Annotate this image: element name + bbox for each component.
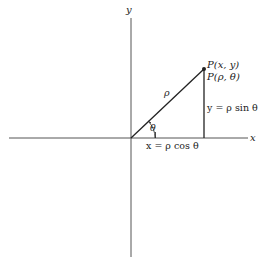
vertical-equation: y = ρ sin θ [206,102,258,113]
horizontal-equation: x = ρ cos θ [146,140,199,151]
point-label-cartesian: P(x, y) [206,59,239,70]
point-p [202,67,206,71]
radius-line [131,69,204,138]
polar-coordinate-diagram: y x P(x, y) P(ρ, θ) ρ θ x = ρ cos θ y = … [0,0,263,264]
y-axis-label: y [125,4,132,15]
x-axis-label: x [250,132,256,143]
radius-label: ρ [163,87,170,98]
point-label-polar: P(ρ, θ) [206,71,240,82]
angle-label: θ [150,122,156,133]
